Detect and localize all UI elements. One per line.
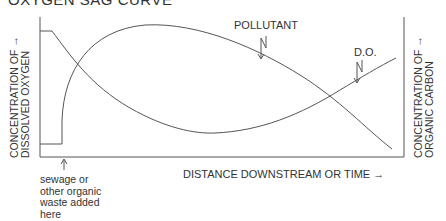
right-axis-label-line2: ORGANIC CARBON xyxy=(424,36,435,158)
right-axis-label: CONCENTRATION OF → ORGANIC CARBON xyxy=(413,36,435,158)
x-axis-label: DISTANCE DOWNSTREAM OR TIME → xyxy=(183,168,384,180)
dissolved-oxygen-curve xyxy=(40,31,396,133)
annotation-line1: sewage or xyxy=(40,174,101,186)
left-axis-label: CONCENTRATION OF → DISSOLVED OXYGEN xyxy=(9,36,31,158)
do-label: D.O. xyxy=(354,46,377,58)
annotation-line3: waste added xyxy=(40,197,101,209)
annotation-line4: here xyxy=(40,209,101,221)
sewage-annotation: sewage or other organic waste added here xyxy=(40,174,101,220)
oxygen-sag-diagram: OXYGEN SAG CURVE CONCENTRATION OF → DISS… xyxy=(0,0,446,221)
left-axis-label-line2: DISSOLVED OXYGEN xyxy=(20,36,31,158)
pollutant-curve xyxy=(40,25,392,149)
pollutant-label: POLLUTANT xyxy=(234,19,298,31)
